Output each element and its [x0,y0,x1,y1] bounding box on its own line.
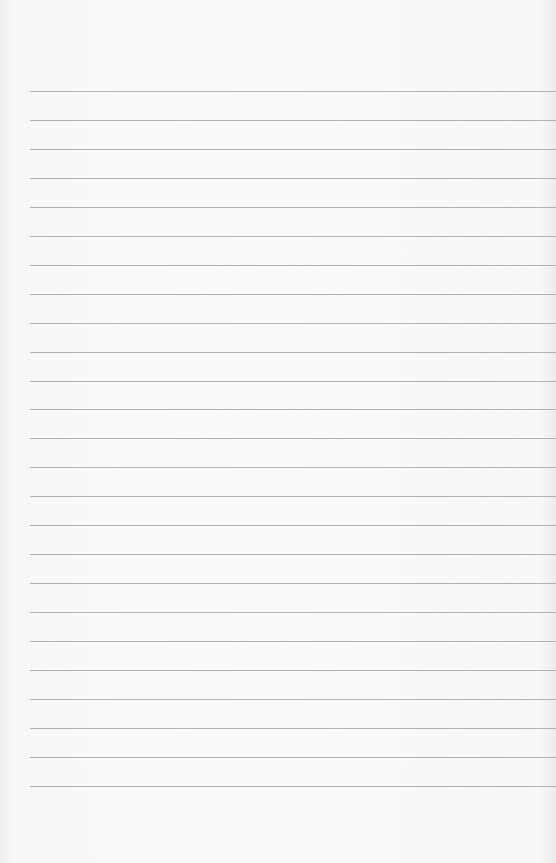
ruled-line [30,91,556,92]
ruled-line [30,207,556,208]
ruled-line [30,496,556,497]
ruled-line [30,409,556,410]
ruled-line [30,525,556,526]
ruled-line [30,699,556,700]
ruled-line [30,294,556,295]
ruled-line [30,438,556,439]
ruled-line [30,467,556,468]
ruled-line [30,381,556,382]
ruled-line [30,786,556,787]
ruled-line [30,120,556,121]
ruled-line [30,323,556,324]
ruled-line [30,265,556,266]
lined-paper [0,0,556,863]
ruled-line [30,728,556,729]
ruled-line [30,178,556,179]
ruled-line [30,757,556,758]
ruled-line [30,554,556,555]
ruled-line [30,670,556,671]
ruled-line [30,641,556,642]
ruled-line [30,352,556,353]
ruled-line [30,149,556,150]
ruled-line [30,612,556,613]
ruled-line [30,236,556,237]
ruled-line [30,583,556,584]
